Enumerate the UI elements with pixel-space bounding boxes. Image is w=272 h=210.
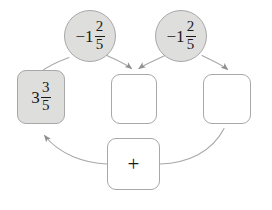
addend-left-fraction: 25 [95, 19, 105, 53]
result-fraction: 35 [41, 80, 51, 114]
math-flow-diagram: −125 −125 335 + [0, 0, 272, 210]
connector-right-circle-to-middle-slot [139, 56, 165, 69]
slot-middle[interactable] [111, 74, 157, 124]
addend-left-numerator: 2 [95, 19, 105, 35]
result-value: 335 [31, 80, 51, 114]
slot-right[interactable] [203, 74, 251, 124]
connector-right-circle-to-right-slot [202, 56, 228, 70]
connector-left-circle-to-middle-slot [106, 55, 132, 69]
addend-left-sign: −1 [75, 28, 94, 45]
addend-right-denominator: 5 [186, 37, 196, 53]
addend-left-circle[interactable]: −125 [64, 10, 116, 62]
addend-right-sign: −1 [166, 28, 185, 45]
addend-right-circle[interactable]: −125 [155, 10, 207, 62]
result-whole: 3 [31, 89, 41, 106]
operator-box[interactable]: + [107, 138, 160, 190]
connector-operator-to-result [45, 136, 108, 165]
addend-right-value: −125 [166, 19, 195, 53]
plus-icon: + [128, 154, 140, 175]
addend-left-denominator: 5 [95, 37, 105, 53]
result-numerator: 3 [41, 80, 51, 96]
addend-left-value: −125 [75, 19, 104, 53]
result-denominator: 5 [41, 98, 51, 114]
result-box[interactable]: 335 [17, 70, 65, 124]
addend-right-numerator: 2 [186, 19, 196, 35]
addend-right-fraction: 25 [186, 19, 196, 53]
connector-right-slot-to-operator [160, 129, 224, 165]
